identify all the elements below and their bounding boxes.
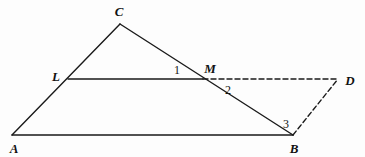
- point-label-B: B: [290, 142, 299, 155]
- point-label-A: A: [10, 142, 19, 155]
- point-label-L: L: [52, 70, 60, 83]
- angle-label-3: 3: [283, 118, 289, 130]
- segments-group: [12, 24, 338, 135]
- angle-label-2: 2: [225, 84, 231, 96]
- point-label-D: D: [345, 74, 354, 87]
- angle-label-1: 1: [174, 64, 180, 76]
- point-label-M: M: [204, 62, 216, 75]
- point-label-C: C: [115, 5, 124, 18]
- segment-BD: [293, 79, 338, 135]
- geometry-figure: C L M D A B 1 2 3: [0, 0, 365, 157]
